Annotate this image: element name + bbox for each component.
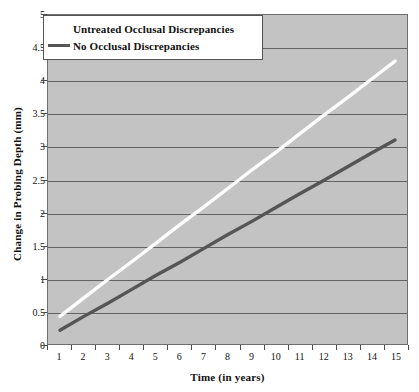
x-tick-mark xyxy=(95,345,96,350)
y-tick-label: 3.5 xyxy=(5,108,45,119)
y-tick-label: 1 xyxy=(5,273,45,284)
x-tick-mark xyxy=(312,345,313,350)
x-tick-mark xyxy=(240,345,241,350)
legend-item: Untreated Occlusal Discrepancies xyxy=(48,20,256,37)
x-tick-label: 6 xyxy=(166,351,192,362)
y-tick-label: 2 xyxy=(5,207,45,218)
series-line-untreated-occlusal-discrepancies xyxy=(60,61,395,316)
x-tick-label: 3 xyxy=(94,351,120,362)
x-tick-label: 1 xyxy=(46,351,72,362)
y-tick-label: 1.5 xyxy=(5,240,45,251)
x-tick-label: 11 xyxy=(287,351,313,362)
x-tick-mark xyxy=(264,345,265,350)
x-tick-mark xyxy=(191,345,192,350)
x-tick-label: 2 xyxy=(70,351,96,362)
x-tick-mark xyxy=(119,345,120,350)
legend-swatch-no-occlusal-discrepancies xyxy=(48,44,70,47)
chart-legend: Untreated Occlusal Discrepancies No Occl… xyxy=(43,15,263,60)
legend-label-untreated-occlusal-discrepancies: Untreated Occlusal Discrepancies xyxy=(73,23,234,35)
x-axis-title: Time (in years) xyxy=(47,371,408,383)
x-tick-label: 12 xyxy=(311,351,337,362)
x-tick-mark xyxy=(384,345,385,350)
x-tick-mark xyxy=(47,345,48,350)
y-tick-label: 2.5 xyxy=(5,174,45,185)
x-tick-label: 5 xyxy=(142,351,168,362)
y-tick-label: 0 xyxy=(5,340,45,351)
x-tick-label: 14 xyxy=(359,351,385,362)
x-tick-label: 7 xyxy=(190,351,216,362)
plot-area xyxy=(47,14,408,345)
x-tick-label: 9 xyxy=(239,351,265,362)
x-tick-mark xyxy=(360,345,361,350)
x-tick-label: 13 xyxy=(335,351,361,362)
y-tick-label: 5 xyxy=(5,9,45,20)
y-tick-label: 0.5 xyxy=(5,306,45,317)
series-line-no-occlusal-discrepancies xyxy=(60,140,395,330)
y-tick-label: 3 xyxy=(5,141,45,152)
y-tick-label: 4 xyxy=(5,75,45,86)
x-tick-mark xyxy=(167,345,168,350)
series-layer xyxy=(48,15,407,344)
x-tick-mark xyxy=(288,345,289,350)
legend-swatch-untreated-occlusal-discrepancies xyxy=(48,27,70,30)
x-tick-label: 10 xyxy=(263,351,289,362)
x-tick-mark xyxy=(336,345,337,350)
legend-label-no-occlusal-discrepancies: No Occlusal Discrepancies xyxy=(73,40,199,52)
x-tick-label: 15 xyxy=(383,351,409,362)
y-tick-label: 4.5 xyxy=(5,42,45,53)
x-tick-mark xyxy=(143,345,144,350)
x-tick-mark xyxy=(215,345,216,350)
x-tick-label: 4 xyxy=(118,351,144,362)
x-tick-mark xyxy=(71,345,72,350)
x-tick-mark xyxy=(408,345,409,350)
x-tick-label: 8 xyxy=(215,351,241,362)
chart-container: Change in Probing Depth (mm) 00.511.522.… xyxy=(0,0,419,392)
legend-item: No Occlusal Discrepancies xyxy=(48,37,256,54)
